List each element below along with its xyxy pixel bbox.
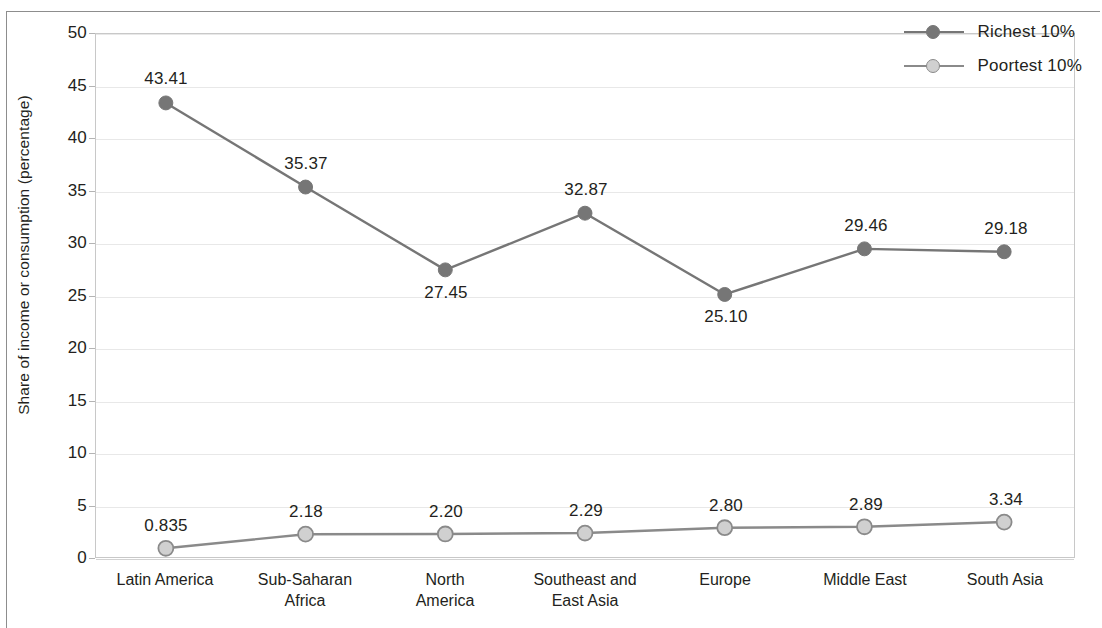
data-label-0-4: 25.10 bbox=[704, 307, 748, 327]
data-point-0-1[interactable] bbox=[299, 180, 313, 194]
gridline-0 bbox=[96, 559, 1074, 560]
y-tick-label-35: 35 bbox=[47, 181, 87, 201]
y-tick-label-15: 15 bbox=[47, 391, 87, 411]
data-point-1-2[interactable] bbox=[438, 527, 453, 542]
data-point-0-5[interactable] bbox=[857, 242, 871, 256]
figure-container: Share of income or consumption (percenta… bbox=[0, 0, 1102, 628]
data-point-0-6[interactable] bbox=[997, 245, 1011, 259]
data-point-1-0[interactable] bbox=[158, 541, 173, 556]
y-tick-label-20: 20 bbox=[47, 338, 87, 358]
legend-item-richest[interactable]: Richest 10% bbox=[904, 15, 1082, 49]
data-label-0-3: 32.87 bbox=[564, 180, 608, 200]
data-label-1-4: 2.80 bbox=[709, 496, 743, 516]
legend-item-poortest[interactable]: Poortest 10% bbox=[904, 49, 1082, 83]
series-layer bbox=[96, 34, 1074, 557]
data-point-1-5[interactable] bbox=[857, 519, 872, 534]
y-tick-label-45: 45 bbox=[47, 76, 87, 96]
y-tick-label-10: 10 bbox=[47, 443, 87, 463]
plot-area: 43.4135.3727.4532.8725.1029.4629.180.835… bbox=[95, 33, 1075, 558]
data-point-0-0[interactable] bbox=[159, 96, 173, 110]
x-tick-label-6: South Asia bbox=[910, 569, 1100, 590]
data-label-1-3: 2.29 bbox=[569, 501, 603, 521]
y-tick-label-0: 0 bbox=[47, 548, 87, 568]
y-tick-label-30: 30 bbox=[47, 233, 87, 253]
data-label-1-0: 0.835 bbox=[144, 516, 188, 536]
legend-marker-poortest bbox=[904, 57, 964, 75]
data-point-0-3[interactable] bbox=[578, 206, 592, 220]
legend-dot-richest bbox=[926, 25, 940, 39]
data-label-0-0: 43.41 bbox=[144, 69, 188, 89]
legend-dot-poortest bbox=[926, 59, 940, 73]
data-label-0-1: 35.37 bbox=[284, 154, 328, 174]
y-tick-label-40: 40 bbox=[47, 128, 87, 148]
data-label-0-6: 29.18 bbox=[984, 219, 1028, 239]
data-label-1-1: 2.18 bbox=[289, 502, 323, 522]
legend-label-poortest: Poortest 10% bbox=[978, 56, 1082, 76]
data-label-1-6: 3.34 bbox=[989, 490, 1023, 510]
legend-label-richest: Richest 10% bbox=[978, 22, 1076, 42]
y-axis-title: Share of income or consumption (percenta… bbox=[15, 15, 33, 495]
data-point-1-1[interactable] bbox=[298, 527, 313, 542]
y-tick-label-50: 50 bbox=[47, 23, 87, 43]
y-tick-label-25: 25 bbox=[47, 286, 87, 306]
y-tick-mark-0 bbox=[89, 558, 95, 559]
data-point-1-3[interactable] bbox=[578, 526, 593, 541]
data-label-1-2: 2.20 bbox=[429, 502, 463, 522]
legend-marker-richest bbox=[904, 23, 964, 41]
data-label-0-5: 29.46 bbox=[844, 216, 888, 236]
data-point-1-6[interactable] bbox=[997, 515, 1012, 530]
data-point-1-4[interactable] bbox=[717, 520, 732, 535]
data-point-0-4[interactable] bbox=[718, 287, 732, 301]
data-label-1-5: 2.89 bbox=[849, 495, 883, 515]
data-point-0-2[interactable] bbox=[438, 263, 452, 277]
y-tick-label-5: 5 bbox=[47, 496, 87, 516]
data-label-0-2: 27.45 bbox=[424, 283, 468, 303]
chart-legend: Richest 10% Poortest 10% bbox=[898, 11, 1088, 89]
